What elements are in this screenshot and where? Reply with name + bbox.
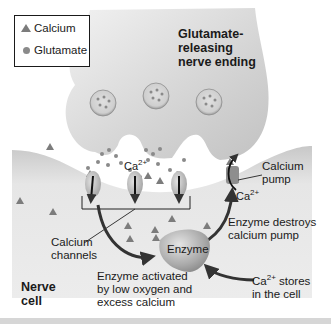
nerve-ending-label: Glutamate- releasing nerve ending xyxy=(178,27,256,69)
calcium-pump-label: Calcium pump xyxy=(262,160,304,186)
ca-stores-label: Ca2+ stores in the cell xyxy=(252,275,310,301)
dot-icon xyxy=(23,47,30,54)
ca-channel-ion-label: Ca2+ xyxy=(124,160,147,173)
legend-item-calcium: Calcium xyxy=(21,22,76,34)
enzyme-label: Enzyme xyxy=(167,243,209,256)
enzyme-destroys-label: Enzyme destroys calcium pump xyxy=(228,216,316,242)
legend: Calcium Glutamate xyxy=(14,15,90,67)
nerve-cell-label: Nerve cell xyxy=(21,280,56,308)
ca-pump-ion-label: Ca2+ xyxy=(236,190,259,203)
enzyme-activated-label: Enzyme activated by low oxygen and exces… xyxy=(97,270,192,309)
legend-item-glutamate: Glutamate xyxy=(21,44,87,56)
calcium-channels-label: Calcium channels xyxy=(51,236,97,262)
bottom-strip xyxy=(0,318,331,324)
triangle-icon xyxy=(21,24,31,32)
